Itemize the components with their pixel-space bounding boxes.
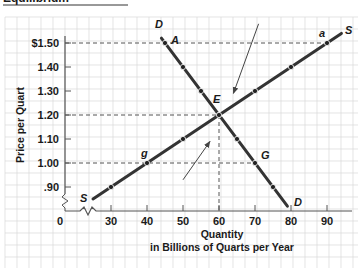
adjustment-arrow: [233, 24, 258, 94]
x-tick-label: 40: [141, 215, 153, 227]
x-tick-label: 70: [249, 215, 261, 227]
data-point: [198, 88, 203, 93]
data-point: [270, 184, 275, 189]
y-axis-title: Price per Quart: [14, 87, 26, 163]
data-point: [288, 64, 293, 69]
data-point: [108, 184, 113, 189]
y-tick-label: $1.50: [31, 37, 59, 49]
supply-label-top: S: [345, 24, 353, 36]
demand-curve: [161, 38, 287, 206]
x-tick-label: 90: [321, 215, 333, 227]
x-tick-label: 30: [105, 215, 117, 227]
demand-label-top: D: [155, 18, 163, 30]
x-tick-labels: 030405060708090: [57, 205, 333, 227]
demand-label-bottom: D: [294, 196, 302, 208]
point-label-g-lower: g: [140, 147, 148, 159]
y-tick-label: 1.00: [38, 157, 59, 169]
data-point: [324, 40, 329, 45]
data-point: [252, 88, 257, 93]
y-tick-label: 1.10: [38, 133, 59, 145]
svg-text:Equilibrium: Equilibrium: [3, 0, 69, 5]
x-tick-label: 60: [213, 215, 225, 227]
data-point: [252, 160, 257, 165]
y-tick-label: 1.40: [38, 61, 59, 73]
equilibrium-label-e: E: [213, 93, 221, 105]
data-point: [162, 40, 167, 45]
x-axis-break: [65, 207, 352, 215]
curves: [93, 33, 341, 206]
y-tick-label: 1.30: [38, 85, 59, 97]
y-tick-label: .90: [44, 181, 59, 193]
supply-label-bottom: S: [80, 192, 88, 204]
adjustment-arrow: [183, 141, 210, 179]
data-point: [234, 136, 239, 141]
data-point: [180, 64, 185, 69]
x-tick-label: 80: [285, 215, 297, 227]
x-tick-label: 50: [177, 215, 189, 227]
x-tick-label: 0: [57, 215, 63, 227]
chart-title: Equilibrium: [3, 0, 128, 5]
x-axis-title-line1: Quantity: [201, 228, 244, 240]
data-point: [144, 160, 149, 165]
point-label-a-upper: A: [170, 34, 179, 46]
point-label-a-lower: a: [319, 27, 325, 39]
data-point: [216, 112, 221, 117]
x-axis-title-line2: in Billions of Quarts per Year: [150, 241, 294, 253]
supply-demand-chart: Equilibrium .901.001.101.201.301.40$1.50…: [0, 0, 358, 273]
point-label-g-upper: G: [261, 149, 270, 161]
data-point: [180, 136, 185, 141]
axes: [62, 36, 352, 215]
y-tick-label: 1.20: [38, 109, 59, 121]
